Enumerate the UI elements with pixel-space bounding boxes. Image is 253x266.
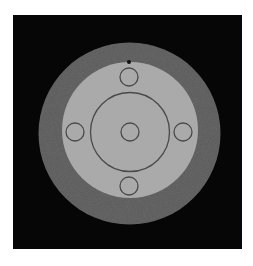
phantom-diagram	[0, 0, 253, 266]
diagram-canvas	[0, 0, 253, 266]
marker-dot	[127, 60, 131, 64]
